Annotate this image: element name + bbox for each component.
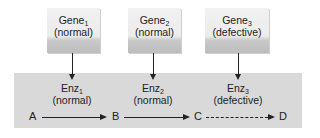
gene-1-box: Gene1 (normal) <box>47 8 100 53</box>
reaction-c-d-arrowhead-icon <box>268 114 275 120</box>
gene-3-arrowhead-icon <box>235 74 241 80</box>
metabolite-a: A <box>29 110 36 123</box>
reaction-a-b-arrowhead-icon <box>100 114 107 120</box>
gene-1-arrowhead-icon <box>69 74 75 80</box>
gene-2-status: (normal) <box>128 26 181 38</box>
gene-1-arrow-line <box>72 53 73 75</box>
reaction-b-c-line <box>124 117 183 118</box>
gene-1-label: Gene1 <box>47 14 100 26</box>
gene-1-status: (normal) <box>47 26 100 38</box>
gene-2-label: Gene2 <box>128 14 181 26</box>
gene-2-arrowhead-icon <box>150 74 156 80</box>
gene-3-label: Gene3 <box>205 14 269 26</box>
gene-3-arrow-line <box>238 53 239 75</box>
gene-2-box: Gene2 (normal) <box>128 8 181 53</box>
metabolite-d: D <box>279 110 287 123</box>
metabolite-b: B <box>112 110 119 123</box>
enzyme-1-label: Enz1 (normal) <box>50 82 94 106</box>
enzyme-3-label: Enz3 (defective) <box>208 82 268 106</box>
reaction-b-c-arrowhead-icon <box>183 114 190 120</box>
reaction-a-b-line <box>42 117 100 118</box>
gene-3-status: (defective) <box>205 26 269 38</box>
reaction-c-d-dashed-line <box>206 117 268 118</box>
gene-2-arrow-line <box>153 53 154 75</box>
gene-3-box: Gene3 (defective) <box>205 8 269 53</box>
enzyme-2-label: Enz2 (normal) <box>131 82 175 106</box>
metabolite-c: C <box>194 110 202 123</box>
